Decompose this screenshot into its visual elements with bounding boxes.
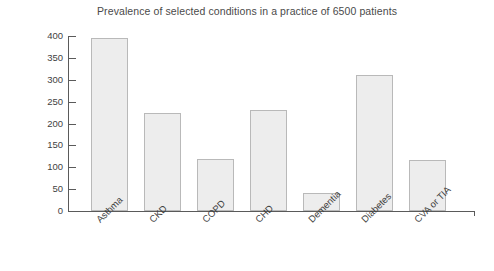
y-tick-mark	[69, 211, 76, 212]
bar	[144, 113, 181, 211]
y-tick-label: 150	[29, 139, 63, 150]
chart-title: Prevalence of selected conditions in a p…	[0, 5, 494, 17]
y-tick-label: 0	[29, 205, 63, 216]
y-tick-mark	[69, 145, 76, 146]
y-tick-label: 200	[29, 118, 63, 129]
bar	[356, 75, 393, 212]
y-tick-mark	[69, 102, 76, 103]
bar-chart: Prevalence of selected conditions in a p…	[0, 0, 494, 271]
y-tick-mark	[69, 189, 76, 190]
y-tick-label: 50	[29, 183, 63, 194]
y-tick-mark	[69, 167, 76, 168]
y-tick-mark	[69, 36, 76, 37]
y-tick-label: 100	[29, 161, 63, 172]
y-tick-mark	[69, 124, 76, 125]
y-tick-label: 400	[29, 30, 63, 41]
y-tick-label: 250	[29, 96, 63, 107]
bar	[91, 38, 128, 211]
y-tick-label: 300	[29, 74, 63, 85]
x-axis-endcap	[474, 211, 475, 216]
y-tick-mark	[69, 80, 76, 81]
bar	[250, 110, 287, 212]
y-tick-label: 350	[29, 52, 63, 63]
y-tick-mark	[69, 58, 76, 59]
